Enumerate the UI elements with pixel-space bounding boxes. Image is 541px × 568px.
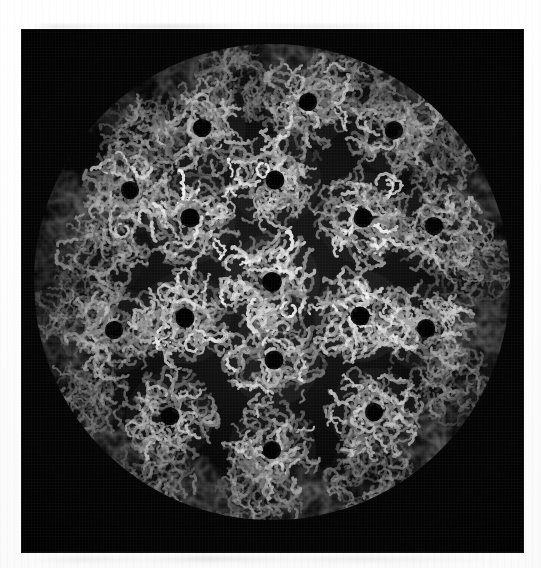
figure-caption [0, 0, 1, 1]
figure-image-panel [22, 30, 523, 552]
capsomer-central-pore [299, 93, 317, 111]
capsomer-central-pore [193, 119, 211, 137]
figure-title: Icosahedral virus capsid, T=7 lattice [0, 0, 1, 1]
figure-alt-text: Grayscale molecular model of an icosahed… [0, 0, 1, 1]
capsomer-central-pore [385, 121, 403, 139]
capsid-svg-canvas [22, 30, 523, 552]
scan-smudge-top [28, 24, 498, 29]
capsomer-central-pore [181, 209, 200, 228]
capsomer-central-pore [262, 272, 282, 292]
capsomer-central-pore [266, 171, 285, 190]
virus-capsid-render [22, 30, 523, 552]
capsomer-central-pore [121, 181, 139, 199]
capsomer-central-pore [176, 309, 195, 328]
capsomer-central-pore [417, 319, 435, 337]
scan-smudge-bottom [30, 556, 500, 562]
capsomer-central-pore [425, 217, 443, 235]
figure-page: Grayscale molecular model of an icosahed… [0, 0, 541, 568]
capsomer-central-pore [161, 407, 179, 425]
capsomer-central-pore [263, 441, 281, 459]
capsomer-central-pore [365, 403, 383, 421]
capsomer-central-pore [351, 307, 370, 326]
capsomer-central-pore [265, 351, 284, 370]
capsomer-central-pore [105, 321, 123, 339]
capsomer-central-pore [354, 209, 373, 228]
